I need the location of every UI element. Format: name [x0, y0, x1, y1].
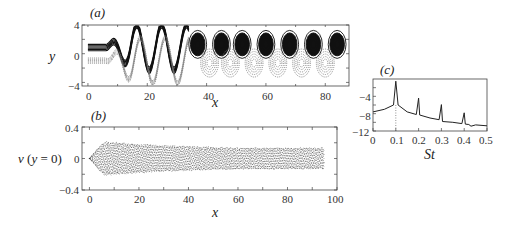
plots-canvas	[0, 0, 510, 228]
panel-c-plot	[373, 79, 487, 131]
panel-a-plot	[82, 25, 349, 86]
panel-b-plot	[82, 127, 337, 190]
